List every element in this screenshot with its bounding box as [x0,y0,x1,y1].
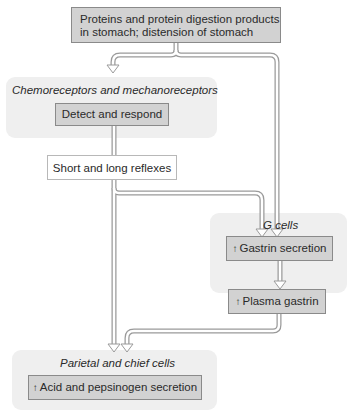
plasma-gastrin-label: Plasma gastrin [242,295,318,308]
parietal-title: Parietal and chief cells [60,357,175,369]
stimulus-line-1: Proteins and protein digestion products [80,13,280,26]
stimulus-box: Proteins and protein digestion products … [71,7,281,43]
increase-arrow-icon: ↑ [33,381,38,394]
gastrin-secretion-label: Gastrin secretion [240,242,327,255]
increase-arrow-icon: ↑ [235,295,240,308]
increase-arrow-icon: ↑ [233,242,238,255]
plasma-gastrin-box: ↑ Plasma gastrin [228,289,326,314]
stimulus-line-2: in stomach; distension of stomach [80,26,280,39]
gastrin-secretion-box: ↑ Gastrin secretion [226,236,333,261]
reflexes-box: Short and long reflexes [47,155,177,180]
detect-respond-box: Detect and respond [55,103,169,126]
receptors-title: Chemoreceptors and mechanoreceptors [12,84,218,96]
acid-pepsinogen-label: Acid and pepsinogen secretion [40,381,197,394]
reflexes-label: Short and long reflexes [53,162,171,174]
detect-respond-label: Detect and respond [62,108,162,121]
acid-pepsinogen-box: ↑ Acid and pepsinogen secretion [28,375,202,400]
g-cells-title: G cells [263,219,298,231]
